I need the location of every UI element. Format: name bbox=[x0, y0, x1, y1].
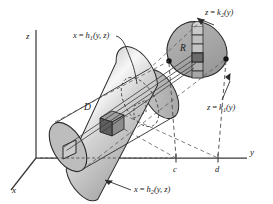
region-sample-cell bbox=[192, 53, 203, 62]
axis-label-x: x bbox=[12, 186, 16, 195]
annotation-k1: z=k1(y) bbox=[207, 103, 235, 113]
annotation-k1-eq: = bbox=[212, 102, 217, 112]
endpoint-dot-right bbox=[223, 56, 228, 61]
annotation-h2-eq: = bbox=[140, 184, 145, 194]
frame-guides bbox=[124, 115, 218, 158]
figure-canvas: z=k2(y) x=h1(y, z) z=k1(y) x=h2(y, z) D … bbox=[0, 0, 273, 204]
annotation-h1-eq: = bbox=[79, 30, 84, 40]
axis-label-z: z bbox=[26, 32, 30, 41]
tick-label-d: d bbox=[215, 165, 219, 174]
region-label-R: R bbox=[180, 44, 186, 54]
strip-cell-6 bbox=[192, 71, 203, 78]
strip-cell-3 bbox=[192, 44, 203, 53]
annotation-h2-args: (y, z) bbox=[154, 184, 171, 194]
annotation-h1-var: x bbox=[73, 30, 77, 40]
strip-cell-1 bbox=[192, 26, 203, 35]
annotation-k1-var: z bbox=[207, 102, 210, 112]
region-label-D: D bbox=[84, 103, 91, 113]
annotation-k2-args: (y) bbox=[224, 7, 233, 17]
region-vertical-strip bbox=[192, 22, 203, 79]
strip-cell-5 bbox=[192, 62, 203, 71]
annotation-h1-args: (y, z) bbox=[93, 30, 110, 40]
annotation-k1-args: (y) bbox=[226, 102, 235, 112]
axis-label-y: y bbox=[250, 148, 254, 157]
annotation-h1: x=h1(y, z) bbox=[73, 31, 109, 41]
annotation-k2-eq: = bbox=[210, 7, 215, 17]
tick-label-c: c bbox=[173, 165, 177, 174]
annotation-h2: x=h2(y, z) bbox=[134, 185, 170, 195]
annotation-k2-var: z bbox=[205, 7, 208, 17]
arrow-k1 bbox=[225, 73, 231, 81]
strip-cell-2 bbox=[192, 35, 203, 44]
annotation-k2: z=k2(y) bbox=[205, 8, 233, 18]
annotation-h2-var: x bbox=[134, 184, 138, 194]
